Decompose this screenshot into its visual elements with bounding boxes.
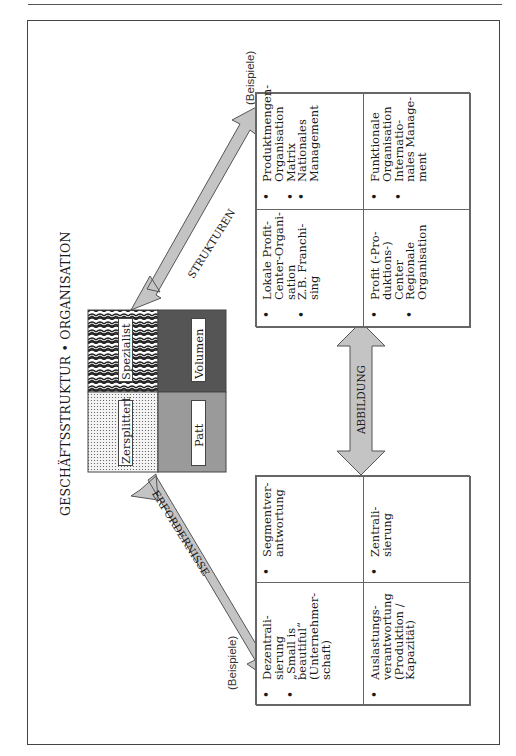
matrix-label-spezialist: Spezialist — [118, 318, 133, 382]
left-box-caption: (Beispiele) — [226, 636, 238, 690]
text-funktionale: Funktionale Organisation Internatio- nal… — [370, 97, 429, 200]
matrix-label-patt: Patt — [191, 400, 206, 466]
text-profit-center: Profit (-Pro- duktions-) Center Regional… — [370, 224, 429, 318]
text-auslastung: Auslastungs- verantwortung (Produktion /… — [370, 593, 417, 698]
text-produktmengen: Produktmengen- Organisation Matrix Natio… — [262, 85, 321, 200]
text-dezentralisierung: Dezentrali- sierung „Small is beautiful“… — [262, 593, 333, 698]
matrix-label-zersplittert: Zersplittert — [118, 400, 133, 466]
text-segmentverantwortung: Segmentver- antwortung — [262, 483, 286, 575]
arrow-label-abbildung: ABBILDUNG — [355, 365, 367, 434]
text-lokale-profit: Lokale Profit- Center-Organi- sation Z.B… — [262, 212, 321, 318]
arrow-strukturen — [131, 104, 262, 310]
matrix-label-volumen: Volumen — [191, 318, 206, 382]
text-zentralisierung: Zentrali- sierung — [370, 507, 394, 575]
